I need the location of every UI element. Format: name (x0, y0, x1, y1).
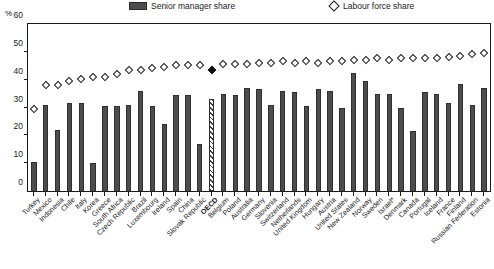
x-axis-labels: TurkeyMexicoIndonesiaChileItalyKoreaGree… (27, 196, 491, 269)
y-axis-tick-label: 40 (2, 66, 28, 75)
diamond-marker-icon (328, 0, 339, 11)
x-axis-tick-mark (282, 192, 283, 196)
diamond-belgium (219, 60, 228, 69)
y-axis-tick-label: 50 (2, 38, 28, 47)
diamond-ireland (160, 63, 169, 72)
diamond-australia (243, 60, 252, 69)
x-axis-tick-mark (294, 192, 295, 196)
y-axis-tick-label: 20 (2, 122, 28, 131)
diamond-chile (65, 77, 74, 86)
chart-legend: Senior manager share Labour force share (0, 0, 494, 16)
x-axis-tick-mark (140, 192, 141, 196)
diamond-france (444, 53, 453, 62)
legend-item-senior-manager-share: Senior manager share (129, 1, 235, 11)
diamond-south-africa (112, 70, 121, 79)
diamond-norway (361, 56, 370, 65)
x-axis-tick-mark (211, 192, 212, 196)
diamond-slovak-republic (195, 61, 204, 70)
diamond-indonesia (53, 81, 62, 90)
legend-label-senior-manager-share: Senior manager share (151, 1, 235, 11)
diamond-poland (231, 60, 240, 69)
diamond-united-states (337, 57, 346, 66)
x-axis-tick-mark (199, 192, 200, 196)
plot-area: 0102030405060 (27, 23, 491, 192)
legend-item-labour-force-share: Labour force share (330, 1, 414, 11)
diamond-italy (77, 75, 86, 84)
diamond-switzerland (278, 57, 287, 66)
diamond-united-kingdom (302, 57, 311, 66)
diamond-sweden (373, 54, 382, 63)
x-axis-tick-mark (57, 192, 58, 196)
diamonds-layer (28, 24, 490, 191)
x-axis-tick-mark (436, 192, 437, 196)
diamond-new-zealand (349, 56, 358, 65)
chart-container: Senior manager share Labour force share … (0, 0, 494, 269)
diamond-greece (100, 72, 109, 81)
diamond-spain (172, 61, 181, 70)
diamond-germany (254, 58, 263, 67)
diamond-mexico (41, 81, 50, 90)
diamond-slovenia (266, 58, 275, 67)
diamond-brazil (136, 65, 145, 74)
diamond-denmark (397, 54, 406, 63)
x-axis-tick-mark (448, 192, 449, 196)
diamond-canada (408, 54, 417, 63)
y-axis-tick-label: 0 (2, 178, 28, 187)
diamond-czech-republic (124, 65, 133, 74)
diamond-finland (456, 51, 465, 60)
bar-swatch-icon (129, 2, 147, 10)
y-axis-tick-label: 60 (2, 11, 28, 20)
legend-label-labour-force-share: Labour force share (343, 1, 414, 11)
diamond-turkey (29, 104, 38, 113)
y-axis-tick-label: 10 (2, 150, 28, 159)
diamond-china (183, 61, 192, 70)
diamond-netherlands (290, 58, 299, 67)
diamond-portugal (420, 54, 429, 63)
x-axis-tick-mark (353, 192, 354, 196)
diamond-estonia (480, 49, 489, 58)
diamond-russian-federation (468, 50, 477, 59)
diamond-iceland (432, 54, 441, 63)
diamond-hungary (314, 58, 323, 67)
y-axis-tick-label: 30 (2, 94, 28, 103)
diamond-korea (89, 72, 98, 81)
x-axis-tick-mark (365, 192, 366, 196)
diamond-luxembourg (148, 64, 157, 73)
x-axis-tick-mark (45, 192, 46, 196)
x-axis-tick-mark (128, 192, 129, 196)
diamond-oecd (207, 65, 216, 74)
diamond-austria (326, 57, 335, 66)
diamond-israel (385, 56, 394, 65)
